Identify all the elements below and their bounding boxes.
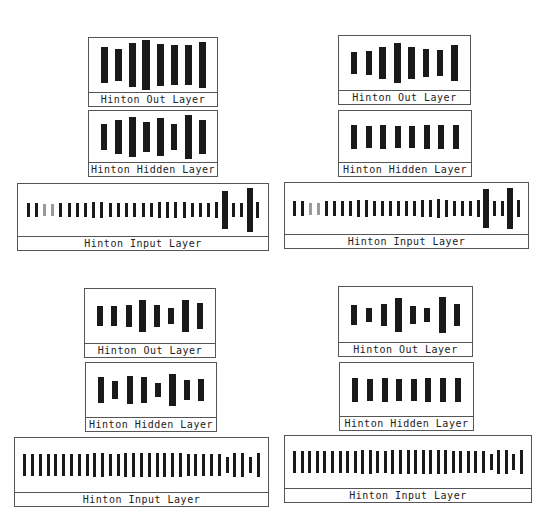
hinton-unit-bar [210,454,213,476]
layer-label: Hinton Hidden Layer [339,163,471,176]
hinton-input-layer-top-right: Hinton Input Layer [284,182,529,249]
hinton-unit-bar [62,454,65,476]
hinton-unit-bar [232,203,235,217]
layer-label: Hinton Input Layer [285,489,531,502]
hinton-unit-bar [483,189,489,227]
hinton-unit-bar [405,201,408,215]
hinton-unit-bar [150,203,153,217]
hinton-unit-bar [233,453,236,477]
hinton-input-layer-bottom-right: Hinton Input Layer [284,435,532,503]
hinton-unit-bar [316,451,319,473]
hinton-unit-bar [399,450,402,474]
hinton-unit-bar [129,117,136,157]
hinton-unit-bar [367,379,373,401]
hinton-unit-bar [445,200,448,217]
hinton-unit-bar [317,203,320,215]
hinton-unit-bar [382,378,388,402]
hinton-unit-bar [301,451,304,473]
hinton-unit-bar [133,203,136,217]
hinton-unit-bar [438,125,444,149]
hinton-unit-bar [54,454,57,476]
hinton-unit-bar [357,200,360,217]
hinton-plot-area [340,363,473,417]
hinton-unit-bar [249,457,252,474]
hinton-unit-bar [366,126,372,148]
hinton-unit-bar [369,450,372,474]
hinton-unit-bar [341,201,344,215]
hinton-unit-bar [163,453,166,477]
hinton-input-layer-top-left: Hinton Input Layer [17,183,269,251]
hinton-unit-bar [154,305,160,327]
hinton-unit-bar [84,203,87,217]
hinton-unit-bar [379,47,386,79]
hinton-unit-bar [185,45,192,85]
hinton-unit-bar [413,201,416,215]
hinton-unit-bar [381,201,384,215]
hinton-unit-bar [132,453,135,477]
hinton-unit-bar [184,380,190,400]
hinton-unit-bar [115,49,122,81]
hinton-unit-bar [194,454,197,476]
hinton-unit-bar [92,202,95,219]
hinton-unit-bar [51,204,54,216]
hinton-unit-bar [100,202,103,219]
hinton-unit-bar [70,454,73,476]
hinton-unit-bar [158,202,161,219]
hinton-unit-bar [351,125,357,149]
hinton-unit-bar [323,451,326,473]
hinton-unit-bar [199,42,206,88]
hinton-unit-bar [101,47,108,83]
hinton-unit-bar [384,451,387,473]
hinton-unit-bar [93,453,96,477]
hinton-unit-bar [218,454,221,476]
hinton-unit-bar [425,378,431,402]
hinton-unit-bar [411,379,417,401]
hinton-unit-bar [98,377,104,403]
hinton-unit-bar [215,202,218,219]
hinton-unit-bar [439,297,446,333]
hinton-unit-bar [142,203,145,217]
hinton-unit-bar [429,200,432,217]
hinton-unit-bar [490,454,493,471]
hinton-unit-bar [101,453,104,477]
layer-label: Hinton Hidden Layer [86,418,216,431]
hinton-unit-bar [68,203,71,217]
layer-label: Hinton Input Layer [285,235,528,248]
hinton-unit-bar [482,451,485,473]
hinton-unit-bar [376,451,379,473]
hinton-unit-bar [437,450,440,474]
hinton-unit-bar [226,457,229,474]
hinton-plot-area [339,111,471,163]
hinton-unit-bar [391,450,394,474]
hinton-unit-bar [112,381,118,399]
hinton-plot-area [85,289,215,344]
hinton-unit-bar [477,200,480,217]
hinton-hidden-layer-top-left: Hinton Hidden Layer [88,110,218,177]
hinton-unit-bar [474,451,477,473]
hinton-unit-bar [199,120,206,154]
hinton-unit-bar [520,450,523,474]
hinton-unit-bar [47,454,50,476]
hinton-unit-bar [361,450,364,474]
hinton-unit-bar [422,450,425,474]
hinton-unit-bar [127,376,133,404]
hinton-unit-bar [424,308,430,322]
hinton-unit-bar [354,451,357,473]
hinton-out-layer-bottom-right: Hinton Out Layer [338,286,473,357]
hinton-unit-bar [346,451,349,473]
hinton-unit-bar [408,47,415,79]
hinton-hidden-layer-bottom-left: Hinton Hidden Layer [85,362,217,432]
hinton-unit-bar [148,453,151,477]
layer-label: Hinton Hidden Layer [89,163,217,176]
hinton-unit-bar [381,304,387,326]
hinton-unit-bar [143,122,150,152]
hinton-unit-bar [421,200,424,217]
hinton-unit-bar [395,126,401,148]
hinton-unit-bar [440,378,446,402]
hinton-unit-bar [512,454,515,471]
hinton-unit-bar [349,201,352,215]
hinton-unit-bar [397,201,400,215]
hinton-unit-bar [59,203,62,217]
hinton-unit-bar [199,203,202,217]
hinton-unit-bar [453,125,459,149]
